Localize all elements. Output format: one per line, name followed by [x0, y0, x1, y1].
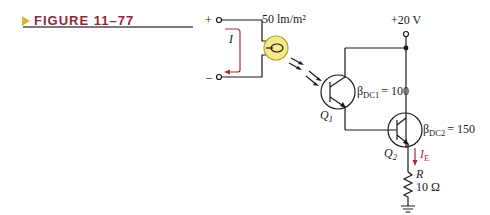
resistor-value: 10 Ω — [416, 180, 440, 194]
resistor-icon — [404, 172, 412, 206]
minus-terminal-label: – — [205, 70, 213, 84]
q1-beta-label: βDC1= 100 — [357, 84, 409, 100]
emitter-current: IE — [413, 147, 430, 166]
emitter-current-label: IE — [419, 147, 429, 163]
supply-rail: +20 V — [345, 13, 422, 148]
supply-label: +20 V — [391, 13, 422, 27]
photocell: 50 lm/m² — [262, 12, 306, 60]
transistor-q2: βDC2= 150 Q2 — [345, 113, 475, 172]
input-terminals: + – — [205, 13, 266, 84]
q1-label: Q1 — [320, 108, 333, 124]
circuit-diagram: + – I 50 lm/m² βDC1= 100 Q1 +20 V — [0, 0, 490, 215]
minus-terminal-icon — [217, 75, 222, 80]
current-label: I — [228, 32, 234, 46]
transistor-q1: βDC1= 100 Q1 — [320, 48, 409, 130]
q1-emitter-arrow-icon — [340, 102, 346, 108]
ground-icon — [401, 206, 415, 212]
supply-terminal-icon — [404, 32, 409, 37]
light-rays — [289, 58, 322, 86]
resistor: R 10 Ω — [401, 167, 440, 212]
illumination-label: 50 lm/m² — [262, 12, 306, 26]
plus-terminal-label: + — [205, 13, 212, 27]
plus-terminal-icon — [217, 18, 222, 23]
resistor-name: R — [415, 167, 424, 181]
emitter-current-arrow-icon — [413, 160, 418, 166]
current-arrow: I — [224, 29, 240, 75]
current-arrowhead-icon — [224, 70, 230, 75]
q2-label: Q2 — [384, 146, 398, 162]
q1-body-icon — [321, 75, 355, 109]
q2-beta-label: βDC2= 150 — [423, 122, 475, 138]
